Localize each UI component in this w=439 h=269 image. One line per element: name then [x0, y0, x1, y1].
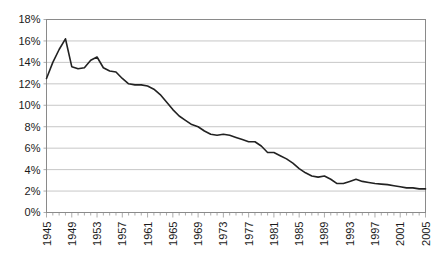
x-axis-tick-label: 1981: [268, 222, 280, 246]
chart-container: 18%16%14%12%10%8%6%4%2%0% 19451949195319…: [0, 0, 439, 269]
x-axis-tick-label: 1945: [41, 222, 53, 246]
x-axis-tick-label: 1997: [369, 222, 381, 246]
y-axis-tick-label: 12%: [18, 78, 40, 90]
x-axis-tick-label: 1989: [318, 222, 330, 246]
y-axis-tick-label: 14%: [18, 56, 40, 68]
x-axis-tick-label: 1985: [293, 222, 305, 246]
y-axis-tick-label: 16%: [18, 35, 40, 47]
y-axis-tick-label: 0%: [25, 206, 41, 218]
x-axis-tick-label: 1961: [142, 222, 154, 246]
x-axis-tick-label: 2005: [420, 222, 432, 246]
x-axis-tick-label: 1965: [167, 222, 179, 246]
y-axis-tick-label: 18%: [18, 13, 40, 25]
x-axis-tick-label: 1969: [192, 222, 204, 246]
y-axis-tick-label: 10%: [18, 99, 40, 111]
y-axis-tick-label: 6%: [25, 142, 41, 154]
y-axis-tick-label: 2%: [25, 185, 41, 197]
x-axis-tick-label: 2001: [394, 222, 406, 246]
y-axis-tick-label: 8%: [25, 121, 41, 133]
x-axis-tick-label: 1993: [344, 222, 356, 246]
x-axis-tick-label: 1949: [66, 222, 78, 246]
x-axis-tick-label: 1957: [116, 222, 128, 246]
x-axis-tick-label: 1977: [243, 222, 255, 246]
line-chart: 18%16%14%12%10%8%6%4%2%0% 19451949195319…: [0, 0, 439, 269]
y-axis-tick-label: 4%: [25, 164, 41, 176]
x-axis-tick-label: 1953: [91, 222, 103, 246]
x-axis-tick-label: 1973: [217, 222, 229, 246]
